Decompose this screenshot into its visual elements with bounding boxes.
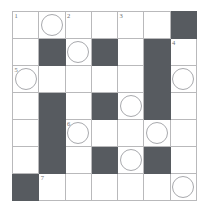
crossword-open-cell[interactable]	[118, 39, 144, 66]
crossword-block-cell	[91, 39, 117, 66]
crossword-open-cell[interactable]: 1	[13, 12, 39, 39]
crossword-open-cell[interactable]	[65, 147, 91, 174]
crossword-open-cell[interactable]	[65, 174, 91, 201]
crossword-row: 5	[13, 66, 197, 93]
clue-number: 4	[172, 39, 175, 46]
clue-number: 1	[15, 12, 18, 19]
crossword-open-cell[interactable]	[118, 174, 144, 201]
crossword-row	[13, 93, 197, 120]
crossword-open-cell[interactable]	[65, 93, 91, 120]
crossword-open-cell[interactable]: 6	[65, 120, 91, 147]
crossword-open-cell[interactable]	[144, 12, 170, 39]
crossword-block-cell	[91, 93, 117, 120]
crossword-row: 123	[13, 12, 197, 39]
crossword-open-cell[interactable]: 5	[13, 66, 39, 93]
clue-number: 7	[41, 174, 44, 181]
crossword-open-cell[interactable]	[144, 120, 170, 147]
crossword-block-cell	[13, 174, 39, 201]
crossword-puzzle: 1234567	[12, 11, 196, 200]
clue-number: 2	[67, 12, 70, 19]
crossword-block-cell	[144, 93, 170, 120]
cell-circle-marker	[67, 41, 89, 63]
crossword-open-cell[interactable]	[170, 174, 196, 201]
cell-circle-marker	[172, 176, 194, 198]
crossword-open-cell[interactable]	[170, 66, 196, 93]
crossword-open-cell[interactable]	[13, 93, 39, 120]
crossword-row	[13, 147, 197, 174]
clue-number: 5	[15, 66, 18, 73]
crossword-open-cell[interactable]	[91, 12, 117, 39]
cell-circle-marker	[120, 149, 142, 171]
crossword-block-cell	[91, 147, 117, 174]
crossword-open-cell[interactable]	[65, 39, 91, 66]
crossword-block-cell	[39, 147, 65, 174]
crossword-open-cell[interactable]	[118, 66, 144, 93]
crossword-open-cell[interactable]	[39, 66, 65, 93]
crossword-block-cell	[144, 39, 170, 66]
crossword-block-cell	[170, 12, 196, 39]
crossword-open-cell[interactable]	[91, 66, 117, 93]
clue-number: 6	[67, 120, 70, 127]
crossword-row: 4	[13, 39, 197, 66]
crossword-open-cell[interactable]	[118, 147, 144, 174]
crossword-row: 7	[13, 174, 197, 201]
crossword-block-cell	[39, 120, 65, 147]
cell-circle-marker	[172, 68, 194, 90]
crossword-open-cell[interactable]	[170, 120, 196, 147]
crossword-block-cell	[39, 39, 65, 66]
crossword-open-cell[interactable]	[170, 93, 196, 120]
crossword-open-cell[interactable]: 3	[118, 12, 144, 39]
crossword-open-cell[interactable]: 7	[39, 174, 65, 201]
crossword-block-cell	[144, 66, 170, 93]
crossword-block-cell	[144, 147, 170, 174]
crossword-open-cell[interactable]	[39, 12, 65, 39]
crossword-open-cell[interactable]	[144, 174, 170, 201]
crossword-block-cell	[39, 93, 65, 120]
crossword-open-cell[interactable]	[118, 93, 144, 120]
crossword-grid-body: 1234567	[13, 12, 197, 201]
crossword-row: 6	[13, 120, 197, 147]
cell-circle-marker	[41, 14, 63, 36]
crossword-open-cell[interactable]	[118, 120, 144, 147]
crossword-grid: 1234567	[12, 11, 197, 201]
crossword-open-cell[interactable]	[13, 39, 39, 66]
crossword-open-cell[interactable]	[13, 120, 39, 147]
crossword-open-cell[interactable]	[170, 147, 196, 174]
crossword-open-cell[interactable]	[91, 174, 117, 201]
crossword-open-cell[interactable]: 2	[65, 12, 91, 39]
crossword-open-cell[interactable]	[65, 66, 91, 93]
crossword-open-cell[interactable]: 4	[170, 39, 196, 66]
cell-circle-marker	[15, 68, 37, 90]
cell-circle-marker	[146, 122, 168, 144]
clue-number: 3	[120, 12, 123, 19]
cell-circle-marker	[67, 122, 89, 144]
cell-circle-marker	[120, 95, 142, 117]
crossword-open-cell[interactable]	[91, 120, 117, 147]
crossword-open-cell[interactable]	[13, 147, 39, 174]
